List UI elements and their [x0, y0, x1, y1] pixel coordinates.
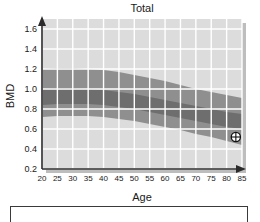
patient-measurement-marker[interactable]: [231, 132, 240, 141]
chart-svg: 0.20.40.60.81.01.21.41.6 202530354045505…: [0, 0, 260, 206]
x-tick-label: 75: [207, 174, 216, 183]
y-tick-label: 0.2: [24, 164, 37, 174]
x-tick-label-group: 2025303540455055606570758085: [38, 174, 247, 183]
x-tick-label: 65: [176, 174, 185, 183]
x-tick-label: 40: [99, 174, 108, 183]
x-tick-label: 60: [161, 174, 170, 183]
x-tick-label: 45: [114, 174, 123, 183]
y-tick-label: 1.2: [24, 64, 37, 74]
y-axis-label: BMD: [4, 84, 16, 109]
x-tick-label: 25: [53, 174, 62, 183]
x-tick-label: 30: [68, 174, 77, 183]
y-tick-label: 0.8: [24, 104, 37, 114]
y-tick-label-group: 0.20.40.60.81.01.21.41.6: [24, 24, 37, 174]
x-axis-label: Age: [132, 191, 152, 203]
x-tick-label: 70: [191, 174, 200, 183]
chart-title: Total: [130, 2, 153, 14]
bmd-age-chart: 0.20.40.60.81.01.21.41.6 202530354045505…: [0, 0, 260, 222]
y-tick-label: 1.0: [24, 84, 37, 94]
x-tick-label: 35: [84, 174, 93, 183]
y-tick-label: 1.6: [24, 24, 37, 34]
y-tick-label: 0.6: [24, 124, 37, 134]
x-tick-label: 55: [145, 174, 154, 183]
x-tick-label: 80: [222, 174, 231, 183]
legend-box: [10, 206, 248, 222]
y-tick-label: 1.4: [24, 44, 37, 54]
x-tick-label: 85: [238, 174, 247, 183]
y-tick-label: 0.4: [24, 144, 37, 154]
x-tick-label: 50: [130, 174, 139, 183]
x-tick-label: 20: [38, 174, 47, 183]
